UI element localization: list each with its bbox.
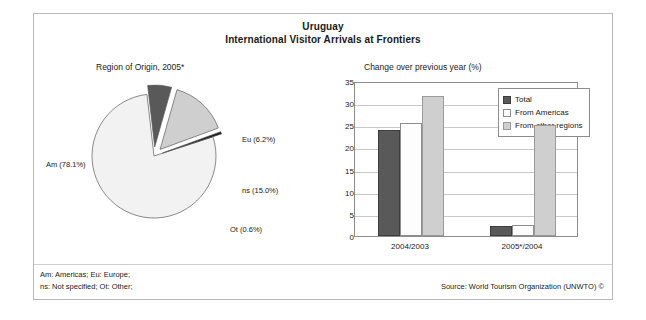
legend-item-from-americas: From Americas [503,106,583,119]
bar-from-americas-2 [512,225,534,236]
y-axis-tick-label: 30 [345,100,354,109]
legend-label-from-americas: From Americas [515,108,569,117]
figure-frame: Uruguay International Visitor Arrivals a… [33,13,613,300]
legend-item-total: Total [503,93,583,106]
bar-total-2 [490,226,512,236]
title-line-1: Uruguay [34,20,612,33]
legend-swatch-total-icon [503,96,511,104]
bar-from-other-regions-1 [422,96,444,236]
bar-chart: 05101520253035 2004/20032005*/2004 Total… [326,76,610,266]
source-note: Source: World Tourism Organization (UNWT… [441,281,604,293]
y-axis-tick-label: 35 [345,78,354,87]
bar-from-other-regions-2 [534,125,556,236]
bar-total-1 [378,130,400,236]
footnote-line-2: ns: Not specified; Ot: Other; [40,281,133,293]
y-axis-tick-label: 25 [345,122,354,131]
legend-swatch-other-icon [503,122,511,130]
pie-chart-svg [42,76,332,241]
pie-slice-label-ns: ns (15.0%) [242,186,278,196]
pie-slice-label-am: Am (78.1%) [46,160,86,170]
x-axis-tick-label: 2004/2003 [391,242,429,252]
title-line-2: International Visitor Arrivals at Fronti… [34,33,612,46]
pie-chart: Am (78.1%) Eu (6.2%) ns (15.0%) Ot (0.6%… [42,76,332,241]
footnotes: Am: Americas; Eu: Europe; ns: Not specif… [40,269,133,293]
y-axis-tick-label: 20 [345,144,354,153]
x-axis-tick-label: 2005*/2004 [502,242,543,252]
legend-label-total: Total [515,95,532,104]
pie-chart-subtitle: Region of Origin, 2005* [96,62,184,73]
bar-chart-subtitle: Change over previous year (%) [364,62,482,73]
pie-slice-label-eu: Eu (6.2%) [242,135,275,145]
legend-swatch-americas-icon [503,109,511,117]
pie-slice-label-ot: Ot (0.6%) [230,225,262,235]
footnote-line-1: Am: Americas; Eu: Europe; [40,269,133,281]
chart-title: Uruguay International Visitor Arrivals a… [34,20,612,46]
bar-from-americas-1 [400,123,422,236]
y-axis-tick-label: 10 [345,188,354,197]
footer-divider [34,264,612,265]
y-axis-tick-label: 15 [345,166,354,175]
